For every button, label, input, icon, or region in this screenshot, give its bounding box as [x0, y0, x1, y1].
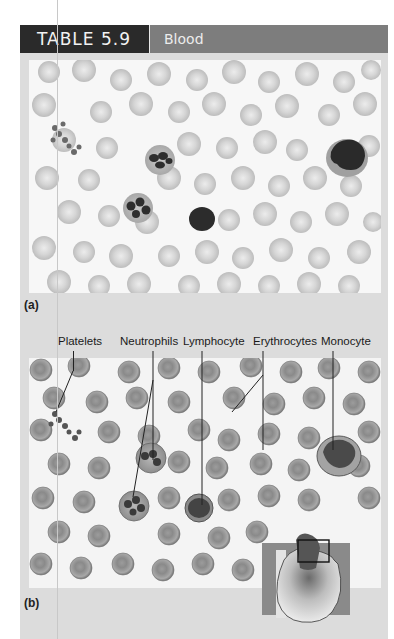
- page-margin-line: [57, 0, 58, 639]
- panel-b-label: (b): [24, 596, 39, 610]
- heart-icon: [262, 520, 352, 625]
- heart-inset: [262, 520, 352, 625]
